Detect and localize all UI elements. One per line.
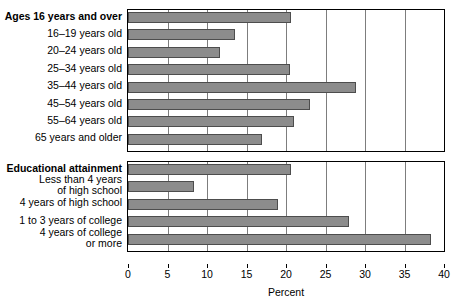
- x-tick-label-15: 15: [241, 269, 253, 280]
- category-label: 16–19 years old: [0, 28, 122, 39]
- panel-heading-label: Educational attainment: [0, 163, 122, 174]
- gridline-35: [405, 10, 406, 151]
- x-tick-label-20: 20: [280, 269, 292, 280]
- category-label: 55–64 years old: [0, 115, 122, 126]
- panel-plot-area-educational-attainment: [128, 162, 444, 251]
- x-axis-title: Percent: [127, 286, 445, 298]
- bar: [128, 64, 290, 75]
- gridline-20: [286, 10, 287, 151]
- bar: [128, 134, 262, 145]
- bar: [128, 29, 235, 40]
- x-tick-label-25: 25: [320, 269, 332, 280]
- bar-chart: Ages 16 years and over16–19 years old20–…: [0, 0, 457, 305]
- gridline-15: [247, 10, 248, 151]
- category-label: 1 to 3 years of college: [0, 215, 122, 226]
- bar: [128, 234, 431, 245]
- bar: [128, 199, 278, 210]
- category-label: 20–24 years old: [0, 45, 122, 56]
- x-tick-label-10: 10: [201, 269, 213, 280]
- chart-panel-age-groups: [127, 9, 445, 152]
- bar: [128, 99, 310, 110]
- bar: [128, 181, 194, 192]
- bar: [128, 164, 291, 175]
- bar: [128, 216, 349, 227]
- x-tick-label-5: 5: [165, 269, 171, 280]
- category-label: 4 years of college or more: [0, 227, 122, 249]
- x-tick-label-35: 35: [399, 269, 411, 280]
- category-label: Less than 4 years of high school: [0, 174, 122, 196]
- category-label: 65 years and older: [0, 132, 122, 143]
- category-label: 4 years of high school: [0, 197, 122, 208]
- panel-heading-label: Ages 16 years and over: [0, 11, 122, 22]
- bar: [128, 82, 356, 93]
- bar: [128, 47, 220, 58]
- category-label: 25–34 years old: [0, 63, 122, 74]
- x-tick-label-0: 0: [125, 269, 131, 280]
- category-label: 45–54 years old: [0, 98, 122, 109]
- gridline-30: [365, 10, 366, 151]
- x-tick-label-30: 30: [359, 269, 371, 280]
- bar: [128, 12, 291, 23]
- x-tick-label-40: 40: [438, 269, 450, 280]
- bar: [128, 116, 294, 127]
- panel-plot-area-age-groups: [128, 10, 444, 151]
- chart-panel-educational-attainment: [127, 161, 445, 252]
- category-label: 35–44 years old: [0, 80, 122, 91]
- gridline-25: [326, 10, 327, 151]
